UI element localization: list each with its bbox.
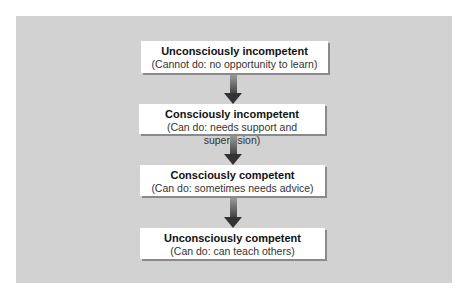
arrow-shaft [230,198,237,218]
stage-subtitle: (Can do: sometimes needs advice) [140,182,325,195]
arrow-head [224,154,242,165]
arrow-down-icon [224,198,244,228]
arrow-down-icon [224,75,244,104]
stage-title: Unconsciously competent [140,232,325,245]
arrow-head [224,217,242,228]
arrow-down-icon [224,136,244,165]
arrow-shaft [230,136,237,155]
stage-title: Consciously competent [140,169,325,182]
stage-title: Unconsciously incompetent [141,45,328,58]
arrow-head [224,93,242,104]
stage-box-consciously-incompetent: Consciously incompetent (Can do: needs s… [139,104,325,134]
arrow-shaft [230,75,237,94]
stage-title: Consciously incompetent [139,108,325,121]
stage-box-unconsciously-competent: Unconsciously competent (Can do: can tea… [140,228,325,259]
stage-subtitle: (Can do: can teach others) [140,245,325,258]
stage-box-consciously-competent: Consciously competent (Can do: sometimes… [140,165,325,196]
stage-box-unconsciously-incompetent: Unconsciously incompetent (Cannot do: no… [141,41,328,73]
stage-subtitle: (Cannot do: no opportunity to learn) [141,58,328,71]
